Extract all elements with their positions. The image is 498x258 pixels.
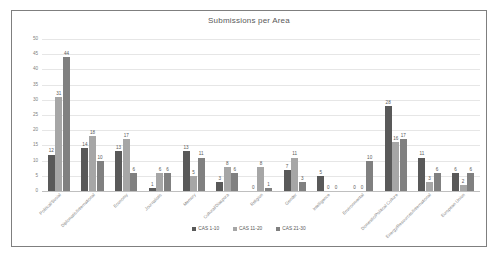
bar-value-label: 28 (386, 101, 391, 106)
bar: 8 (224, 167, 231, 191)
y-axis-tick-label: 10 (33, 158, 38, 163)
bar-value-label: 0 (335, 186, 338, 191)
bar-group: 1136 (413, 39, 447, 191)
plot-area: 1231441418101317616613511386081711350000… (42, 39, 480, 191)
x-axis-tick-label: Economy (113, 193, 129, 209)
bar: 6 (231, 173, 238, 191)
y-axis-tick-label: 50 (33, 37, 38, 42)
bar: 6 (156, 173, 163, 191)
bar-value-label: 5 (192, 171, 195, 176)
bar: 3 (299, 182, 306, 191)
bar-value-label: 17 (401, 134, 406, 139)
x-axis-tick-label: Journalistic (144, 193, 163, 212)
bar-value-label: 1 (151, 183, 154, 188)
bar-value-label: 0 (252, 186, 255, 191)
legend-label: CAS 21-30 (282, 227, 305, 232)
bar-value-label: 12 (49, 149, 54, 154)
x-axis-tick-label: Memory (182, 193, 196, 207)
bar-group: 7113 (278, 39, 312, 191)
bar-value-label: 31 (56, 92, 61, 97)
y-axis-tick-label: 45 (33, 52, 38, 57)
bar-value-label: 16 (393, 137, 398, 142)
bar: 5 (317, 176, 324, 191)
bar: 11 (291, 158, 298, 191)
bar-value-label: 1 (267, 183, 270, 188)
bar-group: 281617 (379, 39, 413, 191)
legend-swatch-icon (192, 227, 196, 231)
bar-value-label: 3 (428, 177, 431, 182)
legend-swatch-icon (233, 227, 237, 231)
bar: 17 (400, 139, 407, 191)
bar-value-label: 6 (166, 168, 169, 173)
bar: 14 (81, 148, 88, 191)
legend-item[interactable]: CAS 21-30 (276, 227, 305, 232)
legend-label: CAS 11-20 (239, 227, 262, 232)
bar-value-label: 14 (82, 143, 87, 148)
bar-value-label: 6 (159, 168, 162, 173)
bar-value-label: 0 (353, 186, 356, 191)
bar: 6 (452, 173, 459, 191)
bar-group: 13176 (109, 39, 143, 191)
bar-group: 0010 (345, 39, 379, 191)
bar-group: 141810 (76, 39, 110, 191)
bar: 7 (284, 170, 291, 191)
legend-item[interactable]: CAS 11-20 (233, 227, 262, 232)
y-axis-tick-label: 0 (35, 189, 38, 194)
y-axis-tick-label: 30 (33, 98, 38, 103)
bar-value-label: 3 (218, 177, 221, 182)
bar-value-label: 6 (436, 168, 439, 173)
bar: 10 (97, 161, 104, 191)
bar-value-label: 0 (361, 186, 364, 191)
bar: 6 (434, 173, 441, 191)
bar-group: 123144 (42, 39, 76, 191)
bar-value-label: 10 (367, 156, 372, 161)
bar: 8 (257, 167, 264, 191)
y-axis-tick-label: 5 (35, 174, 38, 179)
bar-value-label: 10 (98, 156, 103, 161)
chart-legend: CAS 1-10CAS 11-20CAS 21-30 (12, 227, 486, 232)
bar-value-label: 3 (301, 177, 304, 182)
bar-group: 166 (143, 39, 177, 191)
bar: 28 (385, 106, 392, 191)
x-axis-tick-label: Diplomatic/International (60, 193, 96, 229)
bar-value-label: 8 (226, 162, 229, 167)
bar: 17 (123, 139, 130, 191)
bar: 13 (115, 151, 122, 191)
bar: 31 (55, 97, 62, 191)
bar: 3 (216, 182, 223, 191)
bar: 11 (198, 158, 205, 191)
bar: 6 (467, 173, 474, 191)
bar-value-label: 7 (286, 165, 289, 170)
bar: 1 (149, 188, 156, 191)
chart-container: Submissions per Area 0510152025303540455… (11, 10, 487, 247)
x-axis-tick-label: Political/Social (39, 193, 62, 216)
bar-value-label: 11 (199, 152, 204, 157)
x-axis-tick-label: Environmental (342, 193, 365, 216)
legend-item[interactable]: CAS 1-10 (192, 227, 219, 232)
legend-label: CAS 1-10 (198, 227, 219, 232)
bar: 1 (265, 188, 272, 191)
bar-value-label: 6 (133, 168, 136, 173)
bar-value-label: 6 (454, 168, 457, 173)
y-axis-tick-label: 20 (33, 128, 38, 133)
bar: 16 (392, 142, 399, 191)
bar-value-label: 13 (183, 146, 188, 151)
bar-value-label: 5 (319, 171, 322, 176)
y-axis: 05101520253035404550 (23, 39, 40, 191)
bar: 3 (426, 182, 433, 191)
x-axis-tick-label: Religion (250, 193, 264, 207)
bar-value-label: 11 (292, 152, 297, 157)
bar: 12 (48, 155, 55, 191)
x-axis: Political/SocialDiplomatic/International… (42, 193, 480, 239)
bar-value-label: 13 (116, 146, 121, 151)
bar-value-label: 6 (234, 168, 237, 173)
bar: 44 (63, 57, 70, 191)
x-axis-tick-label: European Union (441, 193, 467, 219)
bar-group: 13511 (177, 39, 211, 191)
bar-value-label: 2 (462, 180, 465, 185)
bar-value-label: 17 (124, 134, 129, 139)
bar-value-label: 6 (469, 168, 472, 173)
bar-group: 500 (312, 39, 346, 191)
bar-group: 386 (210, 39, 244, 191)
x-axis-tick-label: Gender (284, 193, 297, 206)
